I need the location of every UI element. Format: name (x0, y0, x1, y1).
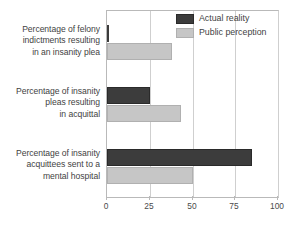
category-axis-labels: Percentage of felonyindictments resultin… (0, 10, 103, 196)
category-label-line: Percentage of insanity (0, 86, 100, 98)
category-label-line: pleas resulting (0, 97, 100, 109)
category-label-line: acquittees sent to a (0, 159, 100, 171)
bar-actual-reality-2 (107, 149, 252, 166)
category-label-2: Percentage of insanityacquittees sent to… (0, 148, 100, 183)
category-label-line: Percentage of felony (0, 24, 100, 36)
category-label-line: indictments resulting (0, 35, 100, 47)
chart-legend: Actual realityPublic perception (176, 12, 288, 40)
x-axis-tick-label-25: 25 (144, 201, 153, 212)
legend-item-actual-reality: Actual reality (176, 12, 288, 25)
bar-actual-reality-0 (107, 25, 109, 42)
bar-public-perception-2 (107, 167, 193, 184)
x-axis-tick-labels: 0255075100 (0, 201, 300, 215)
legend-swatch-icon (176, 14, 194, 24)
category-label-0: Percentage of felonyindictments resultin… (0, 24, 100, 59)
category-label-line: mental hospital (0, 171, 100, 183)
legend-swatch-icon (176, 28, 194, 38)
category-label-line: Percentage of insanity (0, 148, 100, 160)
category-label-line: in an insanity plea (0, 47, 100, 59)
x-axis-tick-label-75: 75 (229, 201, 238, 212)
x-axis-tick-label-100: 100 (270, 201, 284, 212)
category-label-1: Percentage of insanitypleas resultingin … (0, 86, 100, 121)
legend-item-public-perception: Public perception (176, 26, 288, 39)
x-axis-tick (192, 196, 193, 200)
x-axis-tick (149, 196, 150, 200)
x-axis-tick (277, 196, 278, 200)
x-axis-tick-label-50: 50 (187, 201, 196, 212)
x-axis-tick (234, 196, 235, 200)
bar-public-perception-0 (107, 43, 172, 60)
bar-chart: Percentage of felonyindictments resultin… (0, 0, 300, 236)
x-axis-tick-label-0: 0 (104, 201, 109, 212)
x-axis-tick (106, 196, 107, 200)
bar-public-perception-1 (107, 105, 181, 122)
legend-label: Public perception (199, 27, 266, 38)
category-label-line: in acquittal (0, 109, 100, 121)
bar-actual-reality-1 (107, 87, 150, 104)
legend-label: Actual reality (199, 13, 249, 24)
